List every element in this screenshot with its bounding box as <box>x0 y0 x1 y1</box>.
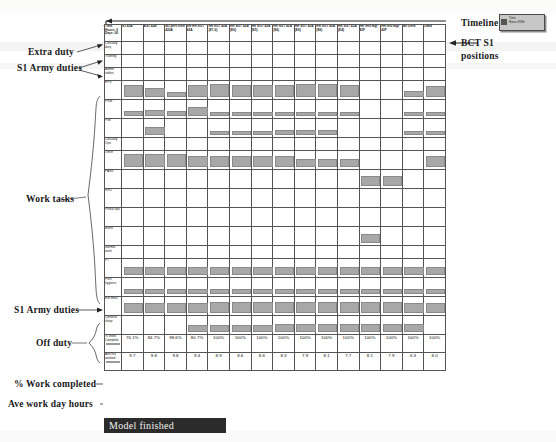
task-cell[interactable] <box>143 55 165 68</box>
task-cell[interactable] <box>424 170 446 189</box>
task-cell[interactable] <box>424 151 446 170</box>
task-cell[interactable] <box>402 55 424 68</box>
task-cell[interactable] <box>165 227 187 246</box>
task-cell[interactable] <box>337 68 359 81</box>
task-cell[interactable] <box>143 189 165 208</box>
task-cell[interactable] <box>359 81 381 100</box>
task-cell[interactable] <box>273 151 295 170</box>
task-cell[interactable] <box>165 189 187 208</box>
task-cell[interactable] <box>359 246 381 259</box>
task-cell[interactable] <box>294 42 316 55</box>
task-cell[interactable] <box>424 189 446 208</box>
task-cell[interactable] <box>402 316 424 335</box>
summary-cell[interactable]: 8.3 <box>273 353 295 371</box>
summary-cell[interactable]: 100% <box>208 335 230 353</box>
summary-cell[interactable]: 100% <box>402 335 424 353</box>
task-cell[interactable] <box>122 278 144 297</box>
task-cell[interactable] <box>381 138 403 151</box>
task-cell[interactable] <box>229 100 251 119</box>
task-cell[interactable] <box>143 259 165 278</box>
task-cell[interactable] <box>359 68 381 81</box>
task-cell[interactable] <box>402 208 424 227</box>
task-cell[interactable] <box>337 208 359 227</box>
task-cell[interactable] <box>294 119 316 138</box>
summary-cell[interactable]: 6.3 <box>402 353 424 371</box>
task-cell[interactable] <box>229 42 251 55</box>
task-cell[interactable] <box>316 68 338 81</box>
task-cell[interactable] <box>359 316 381 335</box>
task-cell[interactable] <box>165 259 187 278</box>
task-cell[interactable] <box>424 100 446 119</box>
task-cell[interactable] <box>186 138 208 151</box>
task-cell[interactable] <box>273 81 295 100</box>
task-cell[interactable] <box>294 100 316 119</box>
task-cell[interactable] <box>381 55 403 68</box>
task-cell[interactable] <box>316 119 338 138</box>
task-cell[interactable] <box>273 138 295 151</box>
column-header-12[interactable]: HR Info Mgr 42F <box>381 25 403 42</box>
task-cell[interactable] <box>251 316 273 335</box>
task-cell[interactable] <box>208 100 230 119</box>
task-cell[interactable] <box>186 189 208 208</box>
task-cell[interactable] <box>122 297 144 316</box>
summary-cell[interactable]: 100% <box>251 335 273 353</box>
task-cell[interactable] <box>122 55 144 68</box>
task-cell[interactable] <box>424 119 446 138</box>
task-cell[interactable] <box>402 227 424 246</box>
task-cell[interactable] <box>402 278 424 297</box>
task-cell[interactable] <box>381 81 403 100</box>
summary-cell[interactable]: 100% <box>359 335 381 353</box>
task-cell[interactable] <box>337 81 359 100</box>
task-cell[interactable] <box>229 119 251 138</box>
task-cell[interactable] <box>186 208 208 227</box>
task-cell[interactable] <box>122 119 144 138</box>
task-cell[interactable] <box>165 170 187 189</box>
summary-cell[interactable]: 7.9 <box>381 353 403 371</box>
task-cell[interactable] <box>402 170 424 189</box>
column-header-14[interactable]: DMM <box>424 25 446 42</box>
task-cell[interactable] <box>186 68 208 81</box>
task-cell[interactable] <box>165 316 187 335</box>
task-cell[interactable] <box>229 278 251 297</box>
task-cell[interactable] <box>273 316 295 335</box>
task-cell[interactable] <box>208 55 230 68</box>
task-cell[interactable] <box>381 227 403 246</box>
task-cell[interactable] <box>424 42 446 55</box>
task-cell[interactable] <box>316 138 338 151</box>
task-cell[interactable] <box>424 208 446 227</box>
task-cell[interactable] <box>337 119 359 138</box>
task-cell[interactable] <box>316 208 338 227</box>
task-cell[interactable] <box>143 100 165 119</box>
task-cell[interactable] <box>208 316 230 335</box>
task-cell[interactable] <box>251 259 273 278</box>
task-cell[interactable] <box>316 81 338 100</box>
task-cell[interactable] <box>273 119 295 138</box>
task-cell[interactable] <box>165 81 187 100</box>
work-schedule-grid[interactable]: Time Hours: 0 Days: 00S1 43AAS1 42BMJ pe… <box>104 24 446 371</box>
task-cell[interactable] <box>165 68 187 81</box>
task-cell[interactable] <box>402 189 424 208</box>
task-cell[interactable] <box>122 81 144 100</box>
task-cell[interactable] <box>186 170 208 189</box>
summary-cell[interactable]: 98.6% <box>165 335 187 353</box>
summary-cell[interactable]: 9.4 <box>186 353 208 371</box>
task-cell[interactable] <box>402 42 424 55</box>
task-cell[interactable] <box>208 189 230 208</box>
task-cell[interactable] <box>208 151 230 170</box>
task-cell[interactable] <box>143 208 165 227</box>
task-cell[interactable] <box>381 42 403 55</box>
task-cell[interactable] <box>294 208 316 227</box>
summary-cell[interactable]: 8.9 <box>208 353 230 371</box>
task-cell[interactable] <box>359 119 381 138</box>
task-cell[interactable] <box>229 316 251 335</box>
task-cell[interactable] <box>316 278 338 297</box>
task-cell[interactable] <box>273 55 295 68</box>
task-cell[interactable] <box>165 138 187 151</box>
task-cell[interactable] <box>143 138 165 151</box>
task-cell[interactable] <box>143 278 165 297</box>
task-cell[interactable] <box>359 208 381 227</box>
column-header-2[interactable]: MJ pers tech 420A <box>165 25 187 42</box>
task-cell[interactable] <box>251 100 273 119</box>
task-cell[interactable] <box>122 316 144 335</box>
task-cell[interactable] <box>229 81 251 100</box>
